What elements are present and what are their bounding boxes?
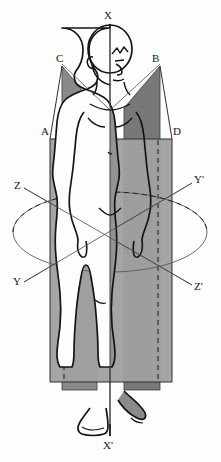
label-z-right: Z' [194,281,203,292]
eye-line [115,60,124,61]
label-plane-b: B [152,53,159,64]
label-y-right: Y' [194,174,204,185]
label-plane-c: C [56,53,63,64]
label-x-top: X [104,10,112,21]
figure-page: 272 FUNCTIONAL ANATOMY OF THE S [0,0,221,462]
label-z-left: Z [14,180,21,191]
label-y-left: Y [13,276,21,287]
label-x-bottom: X' [103,440,113,451]
anatomical-planes-figure [0,0,221,462]
label-plane-d: D [173,126,181,137]
label-plane-a: A [41,126,49,137]
